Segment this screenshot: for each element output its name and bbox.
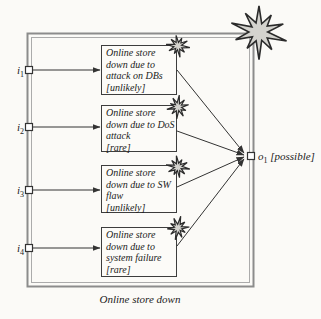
arrow-scenario3-to-o1 bbox=[177, 157, 244, 187]
scenario-text-line: down due to SW bbox=[106, 179, 176, 191]
scenario-text-line: attack bbox=[106, 130, 176, 142]
input-port-i1 bbox=[26, 67, 33, 74]
scenario-likelihood: [rare] bbox=[106, 142, 176, 154]
threat-scenario-box-2: Online store down due to DoS attack [rar… bbox=[101, 105, 177, 152]
scenario-likelihood: [unlikely] bbox=[106, 82, 176, 94]
input-label-i3: i3 bbox=[4, 183, 24, 202]
scenario-text-line: Online store bbox=[106, 167, 176, 179]
arrow-scenario2-to-o1 bbox=[177, 131, 244, 155]
threat-diagram: Online store down due to attack on DBs [… bbox=[0, 0, 321, 319]
scenario-text-line: Online store bbox=[106, 107, 176, 119]
output-arrows bbox=[177, 70, 244, 246]
input-subscript: 2 bbox=[20, 127, 24, 136]
referring-incident-burst-icon bbox=[223, 0, 294, 66]
input-subscript: 1 bbox=[20, 70, 24, 79]
output-label-o1: o1 [possible] bbox=[258, 149, 315, 168]
diagram-caption: Online store down bbox=[27, 293, 253, 305]
scenario-likelihood: [rare] bbox=[106, 264, 176, 276]
input-label-i4: i4 bbox=[4, 241, 24, 260]
scenario-text-line: Online store bbox=[106, 229, 176, 241]
input-label-i2: i2 bbox=[4, 120, 24, 139]
scenario-text-line: flaw bbox=[106, 190, 176, 202]
scenario-text-line: system failure bbox=[106, 252, 176, 264]
scenario-likelihood: [unlikely] bbox=[106, 202, 176, 214]
threat-scenario-box-1: Online store down due to attack on DBs [… bbox=[101, 45, 177, 95]
output-likelihood: [possible] bbox=[270, 150, 315, 162]
scenario-text-line: down due to bbox=[106, 241, 176, 253]
output-port-o1 bbox=[248, 153, 255, 160]
arrow-scenario1-to-o1 bbox=[177, 70, 244, 153]
scenario-text-line: attack on DBs bbox=[106, 70, 176, 82]
input-label-i1: i1 bbox=[4, 63, 24, 82]
input-port-i2 bbox=[26, 124, 33, 131]
scenario-text-line: Online store bbox=[106, 47, 176, 59]
scenario-text-line: down due to DoS bbox=[106, 119, 176, 131]
scenario-text-line: down due to bbox=[106, 59, 176, 71]
threat-scenario-box-4: Online store down due to system failure … bbox=[101, 227, 177, 277]
input-port-i4 bbox=[26, 245, 33, 252]
threat-scenario-box-3: Online store down due to SW flaw [unlike… bbox=[101, 165, 177, 213]
input-subscript: 3 bbox=[20, 190, 24, 199]
input-port-i3 bbox=[26, 187, 33, 194]
input-arrows bbox=[33, 70, 100, 248]
output-subscript: 1 bbox=[264, 156, 268, 165]
arrow-scenario4-to-o1 bbox=[177, 159, 244, 246]
input-subscript: 4 bbox=[20, 248, 24, 257]
